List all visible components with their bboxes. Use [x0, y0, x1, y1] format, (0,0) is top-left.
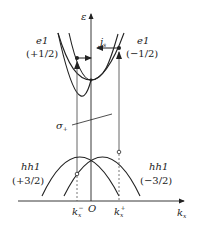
e1-plus-half-band [58, 33, 91, 96]
sigma-plus-label: σ+ [56, 120, 68, 132]
e1-left-parabola [58, 33, 118, 80]
e1-left-spin: (+1/2) [26, 48, 58, 59]
e1-right-name: e1 [137, 35, 149, 46]
hole-circle-right [117, 150, 121, 154]
sigma-pointer-line [72, 114, 112, 125]
hh1-plus-three-half-band [42, 157, 119, 196]
origin-label: O [88, 203, 96, 214]
hh1-right-name: hh1 [149, 161, 168, 172]
e1-left-name: e1 [36, 35, 48, 46]
k-minus-label: kx− [72, 204, 83, 218]
hh1-left-spin: (+3/2) [12, 175, 44, 186]
hh1-minus-three-half-band [64, 157, 140, 196]
arrowhead-k-plus [116, 51, 122, 59]
energy-axis-label: ε [81, 11, 86, 22]
hh1-right-spin: (−3/2) [140, 175, 172, 186]
k-axis-label: kx [177, 207, 187, 219]
hh1-left-name: hh1 [21, 161, 40, 172]
e1-right-spin: (−1/2) [126, 48, 158, 59]
k-plus-label: kx+ [114, 204, 125, 218]
e1-vertex-dot [90, 79, 93, 82]
arrowhead-k-minus [74, 61, 80, 69]
spin-current-label: js [98, 36, 106, 48]
hole-circle-left [75, 172, 79, 176]
band-diagram: ε e1 (+1/2) e1 (−1/2) js σ+ hh1 (+3/2) h… [0, 0, 201, 229]
